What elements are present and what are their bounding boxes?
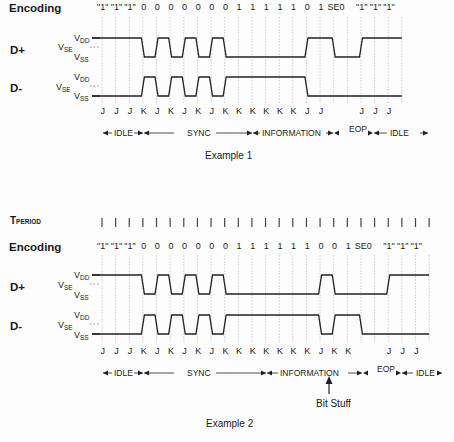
ex1-arrow-left-icon: [144, 131, 149, 136]
bit-stuff-arrow-icon: [326, 376, 333, 384]
waveform-diagram: [0, 0, 454, 442]
ex2-arrow-left-icon: [103, 371, 108, 376]
ex2-arrow-right-icon: [437, 371, 442, 376]
ex2-arrow-left-icon: [144, 371, 149, 376]
ex2-arrow-left-icon: [267, 371, 272, 376]
ex2-arrow-right-icon: [261, 371, 266, 376]
ex1-dminus-waveform: [92, 77, 402, 96]
ex1-arrow-right-icon: [247, 131, 252, 136]
ex1-arrow-right-icon: [423, 131, 428, 136]
ex2-arrow-right-icon: [138, 371, 143, 376]
ex1-arrow-left-icon: [334, 131, 339, 136]
ex2-arrow-right-icon: [357, 371, 362, 376]
ex1-arrow-right-icon: [328, 131, 333, 136]
ex1-arrow-left-icon: [253, 131, 258, 136]
ex2-arrow-right-icon: [396, 371, 401, 376]
ex1-arrow-left-icon: [374, 131, 379, 136]
ex1-arrow-right-icon: [368, 131, 373, 136]
ex1-arrow-right-icon: [138, 131, 143, 136]
ex1-dplus-waveform: [92, 38, 402, 57]
ex1-arrow-left-icon: [103, 131, 108, 136]
ex2-arrow-left-icon: [402, 371, 407, 376]
ex2-arrow-left-icon: [363, 371, 368, 376]
